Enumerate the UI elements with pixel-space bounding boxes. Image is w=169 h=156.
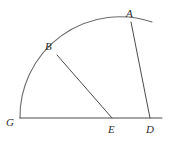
- segment-B-E: [57, 55, 112, 118]
- point-label-G: G: [6, 117, 14, 128]
- geometry-figure: A B G E D: [0, 0, 169, 156]
- point-label-A: A: [126, 8, 133, 19]
- segment-A-D: [131, 22, 150, 118]
- figure-canvas: [0, 0, 169, 156]
- point-label-D: D: [146, 124, 154, 135]
- arc-G-B-A: [20, 17, 152, 118]
- point-label-E: E: [108, 124, 115, 135]
- point-label-B: B: [45, 41, 52, 52]
